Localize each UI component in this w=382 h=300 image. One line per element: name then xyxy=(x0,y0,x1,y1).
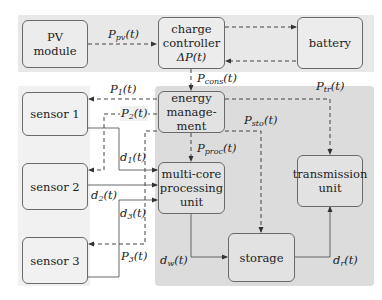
label-p-1: P1(t) xyxy=(110,82,136,97)
battery-label: battery xyxy=(309,36,351,50)
processing-unit-node: multi-coreprocessingunit xyxy=(158,162,225,214)
transmission-unit-line1: transmission xyxy=(293,167,368,181)
energy-management-node: energymanage-ment xyxy=(158,91,225,133)
battery-node: battery xyxy=(297,17,363,69)
sensor1-node: sensor 1 xyxy=(22,92,88,136)
processing-unit-line1: multi-core xyxy=(160,167,223,181)
label-p-proc: Pproc(t) xyxy=(197,141,237,156)
transmission-unit-node: transmissionunit xyxy=(297,155,363,207)
charge-controller-node: chargecontrollerΔP(t) xyxy=(158,17,225,69)
label-d-1: d1(t) xyxy=(120,150,146,165)
charge-controller-line1: charge xyxy=(163,22,220,36)
pv-module-node: PVmodule xyxy=(22,20,88,68)
energy-management-line2: manage- xyxy=(166,105,216,119)
processing-unit-line2: processing xyxy=(160,181,223,195)
energy-management-line3: ment xyxy=(166,119,216,133)
sensor2-node: sensor 2 xyxy=(22,163,88,210)
energy-management-line1: energy xyxy=(166,91,216,105)
label-p-3: P3(t) xyxy=(121,249,147,264)
label-d-2: d2(t) xyxy=(91,188,117,203)
label-p-cons: Pcons(t) xyxy=(197,71,237,86)
pv-module-line1: PV xyxy=(33,30,76,44)
charge-controller-line2: controller xyxy=(163,36,220,50)
label-p-pv: Ppv(t) xyxy=(108,27,139,42)
sensor2-label: sensor 2 xyxy=(30,180,79,194)
label-p-2: P2(t) xyxy=(120,106,148,121)
label-p-tr: Ptr(t) xyxy=(316,79,344,94)
storage-node: storage xyxy=(228,233,295,282)
storage-label: storage xyxy=(240,251,284,265)
charge-controller-line3: ΔP(t) xyxy=(163,50,220,64)
label-d-w: dw(t) xyxy=(160,253,188,268)
sensor3-label: sensor 3 xyxy=(30,254,79,268)
pv-module-line2: module xyxy=(33,44,76,58)
transmission-unit-line2: unit xyxy=(293,181,368,195)
sensor3-node: sensor 3 xyxy=(22,237,88,284)
label-d-r: dr(t) xyxy=(333,253,358,268)
processing-unit-line3: unit xyxy=(160,195,223,209)
sensor1-label: sensor 1 xyxy=(30,107,79,121)
label-d-3: d3(t) xyxy=(120,206,146,221)
label-p-sto: Psto(t) xyxy=(244,113,278,128)
